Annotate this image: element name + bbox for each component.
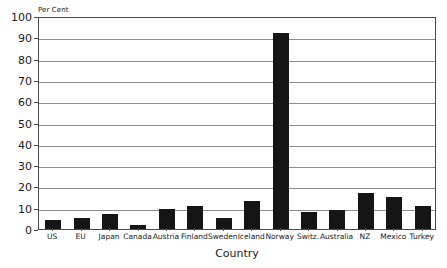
bar: [301, 212, 317, 229]
y-tick-mark: [34, 230, 38, 231]
y-tick-label: 30: [4, 160, 32, 173]
y-tick-label: 0: [4, 224, 32, 237]
x-tick-label: Canada: [123, 232, 152, 241]
bar: [329, 210, 345, 229]
x-axis-ticks: USEUJapanCanadaAustriaFinlandSwedenIcela…: [38, 232, 436, 246]
x-tick-label: Japan: [99, 232, 120, 241]
x-tick-mark: [194, 228, 195, 231]
x-tick-label: NZ: [360, 232, 371, 241]
x-tick-label: EU: [76, 232, 86, 241]
bar-series: [39, 18, 435, 229]
y-tick-label: 50: [4, 117, 32, 130]
x-tick-label: Austria: [153, 232, 180, 241]
bar: [244, 201, 260, 229]
bar: [358, 193, 374, 229]
bar: [102, 214, 118, 229]
x-tick-label: Australia: [320, 232, 353, 241]
x-tick-mark: [52, 228, 53, 231]
x-tick-mark: [365, 228, 366, 231]
bar: [415, 206, 431, 229]
bar-slot: [153, 18, 181, 229]
x-tick-mark: [138, 228, 139, 231]
bar: [45, 220, 61, 229]
y-tick-label: 10: [4, 202, 32, 215]
x-tick-mark: [337, 228, 338, 231]
y-axis-title: Per Cent: [38, 6, 69, 14]
x-tick-mark: [223, 228, 224, 231]
y-tick-label: 80: [4, 53, 32, 66]
bar: [273, 33, 289, 229]
y-tick-label: 90: [4, 32, 32, 45]
y-tick-label: 20: [4, 181, 32, 194]
x-tick-label: US: [47, 232, 57, 241]
x-tick-mark: [308, 228, 309, 231]
plot-area: [38, 17, 436, 230]
x-tick-mark: [109, 228, 110, 231]
x-tick-label: Turkey: [410, 232, 434, 241]
bar-slot: [380, 18, 408, 229]
bar-slot: [238, 18, 266, 229]
x-tick-label: Mexico: [380, 232, 406, 241]
bar: [159, 209, 175, 229]
y-tick-label: 100: [4, 11, 32, 24]
y-tick-label: 60: [4, 96, 32, 109]
x-tick-label: Switz.: [297, 232, 319, 241]
bar-slot: [210, 18, 238, 229]
bar-slot: [295, 18, 323, 229]
bar-slot: [181, 18, 209, 229]
bar-slot: [409, 18, 437, 229]
bar-slot: [96, 18, 124, 229]
bar-slot: [124, 18, 152, 229]
x-tick-mark: [81, 228, 82, 231]
x-tick-mark: [280, 228, 281, 231]
x-tick-mark: [166, 228, 167, 231]
x-tick-mark: [422, 228, 423, 231]
bar: [187, 206, 203, 229]
bar-chart: Per Cent 0102030405060708090100 USEUJapa…: [0, 0, 447, 268]
bar-slot: [266, 18, 294, 229]
y-tick-label: 40: [4, 138, 32, 151]
x-tick-mark: [393, 228, 394, 231]
bar: [386, 197, 402, 229]
x-tick-label: Finland: [181, 232, 208, 241]
y-tick-label: 70: [4, 74, 32, 87]
bar-slot: [67, 18, 95, 229]
bar-slot: [39, 18, 67, 229]
x-tick-label: Sweden: [208, 232, 238, 241]
x-tick-label: Iceland: [238, 232, 265, 241]
x-tick-label: Norway: [265, 232, 293, 241]
x-tick-mark: [251, 228, 252, 231]
x-axis-title: Country: [38, 247, 436, 260]
bar-slot: [323, 18, 351, 229]
bar-slot: [352, 18, 380, 229]
